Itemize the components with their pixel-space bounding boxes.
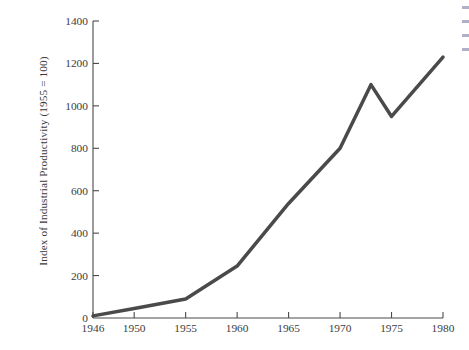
edge-artifact-mark [462, 20, 469, 23]
edge-artifact-mark [462, 48, 469, 51]
plot-area [0, 0, 469, 350]
x-axis-ticks [93, 312, 443, 318]
edge-artifact-mark [462, 34, 469, 37]
axes [93, 21, 443, 318]
x-axis-tick-label: 1980 [413, 322, 469, 334]
data-series-line [93, 57, 443, 316]
edge-artifact-mark [462, 6, 469, 9]
line-chart: Index of Industrial Productivity (1955 =… [0, 0, 469, 350]
edge-artifact-marks [461, 6, 469, 62]
y-axis-ticks [93, 21, 99, 276]
